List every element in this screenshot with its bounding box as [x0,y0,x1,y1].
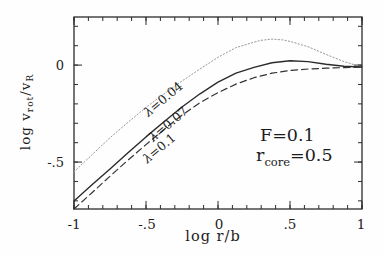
curve-lambda-007 [74,61,362,201]
annotation-F: F=0.1 [260,127,315,145]
figure-canvas: 0 -.5 -1 -.5 0 .5 1 log r/b log vrot/vR … [0,0,383,256]
y-tick-label-neg05: -.5 [34,155,64,170]
annotation-rcore: rcore=0.5 [256,147,333,168]
curve-lambda-01 [74,67,362,209]
x-tick-label-05: .5 [284,216,297,232]
plot-frame [74,17,362,209]
x-tick-label-neg05: -.5 [138,216,155,232]
x-tick-label-neg1: -1 [67,216,80,232]
y-tick-label-0: 0 [42,58,64,73]
x-axis-title: log r/b [185,228,240,244]
annotation-rcore-sub: core [264,155,290,169]
x-tick-label-1: 1 [357,216,366,232]
y-axis-sub-R: R [25,74,35,82]
y-axis-title: log vrot/vR [17,74,36,150]
y-axis-sub-rot: rot [25,96,35,112]
rotation-curve-plot [0,0,383,256]
